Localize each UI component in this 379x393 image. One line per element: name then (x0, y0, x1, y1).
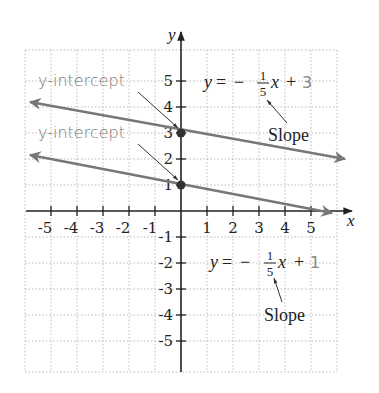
y-tick-label: -4 (158, 306, 173, 324)
y-tick-label: -3 (158, 280, 173, 298)
svg-text:=: = (222, 252, 232, 272)
intercept-point-3 (177, 129, 186, 138)
slope-label-lower: Slope (264, 305, 305, 325)
svg-text:y: y (208, 252, 218, 272)
x-tick-label: -4 (64, 219, 79, 237)
y-tick-label: 2 (163, 150, 173, 168)
svg-text:=: = (216, 72, 226, 92)
equation-lower: y = − 1 5 x + 1 (208, 248, 320, 279)
svg-text:5: 5 (260, 84, 267, 99)
graph: -5 -4 -3 -2 -1 1 2 3 4 5 5 4 3 2 1 -1 -2… (0, 0, 379, 393)
x-tick-label: -1 (143, 219, 158, 237)
slope-arrow-upper (267, 100, 287, 123)
y-axis-label: y (166, 25, 176, 44)
svg-text:+: + (294, 252, 304, 272)
y-tick-label: 4 (163, 98, 173, 116)
slope-label-upper: Slope (268, 125, 309, 145)
x-tick-label: 4 (280, 219, 290, 237)
x-axis-label: x (346, 211, 355, 230)
svg-text:−: − (234, 72, 244, 92)
y-tick-label: 1 (163, 176, 173, 194)
x-tick-label: 2 (228, 219, 238, 237)
svg-text:y: y (202, 72, 212, 92)
x-tick-labels: -5 -4 -3 -2 -1 1 2 3 4 5 (38, 219, 316, 237)
x-tick-label: -5 (38, 219, 53, 237)
y-tick-label: 5 (163, 72, 173, 90)
svg-text:−: − (240, 252, 250, 272)
svg-text:x: x (270, 72, 279, 92)
y-tick-label: -1 (158, 228, 173, 246)
svg-text:+: + (286, 72, 296, 92)
svg-text:3: 3 (302, 73, 312, 92)
slope-arrow-lower (274, 278, 282, 302)
svg-text:x: x (277, 252, 286, 272)
x-tick-label: 3 (254, 219, 264, 237)
svg-text:1: 1 (260, 68, 267, 83)
x-tick-label: 5 (306, 219, 316, 237)
y-intercept-label-lower: y-intercept (38, 123, 125, 142)
x-tick-label: -2 (116, 219, 131, 237)
equation-upper: y = − 1 5 x + 3 (202, 68, 312, 99)
intercept-point-1 (177, 181, 186, 190)
x-tick-label: -3 (90, 219, 105, 237)
y-tick-label: -2 (158, 254, 173, 272)
svg-text:1: 1 (310, 253, 320, 272)
svg-text:5: 5 (267, 264, 274, 279)
x-tick-label: 1 (202, 219, 212, 237)
y-tick-label: -5 (158, 332, 173, 350)
y-intercept-label-upper: y-intercept (38, 71, 125, 90)
svg-text:1: 1 (267, 248, 274, 263)
